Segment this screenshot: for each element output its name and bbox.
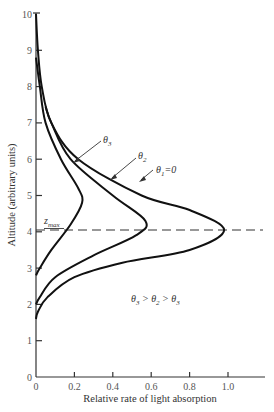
theta2-label: θ2 (138, 150, 147, 164)
curves (36, 14, 224, 319)
y-tick-label: 0 (27, 372, 32, 383)
y-tick-label: 6 (27, 154, 32, 165)
x-tick-label: 0.4 (107, 381, 120, 392)
x-tick-label: 0.6 (145, 381, 158, 392)
y-tick-label: 9 (27, 45, 32, 56)
y-tick-label: 8 (27, 81, 32, 92)
inequality-part: > (160, 293, 172, 304)
curve-theta2 (36, 107, 147, 305)
altitude-absorption-chart: 012345678910 00.20.40.60.81.0 Relative r… (0, 0, 274, 412)
x-tick-label: 0.8 (183, 381, 196, 392)
theta3-label: θ3 (103, 134, 112, 148)
label-theta1: θ1=0 (139, 164, 176, 182)
y-tick-label: 10 (22, 9, 32, 20)
zmax-sub: max (48, 221, 61, 229)
inequality-part: > (139, 293, 151, 304)
theta3-pointer (75, 141, 101, 161)
x-tick-label: 0 (34, 381, 39, 392)
x-axis-title: Relative rate of light absorption (83, 393, 217, 404)
x-ticks: 00.20.40.60.81.0 (34, 372, 235, 392)
y-tick-label: 2 (27, 299, 32, 310)
y-tick-label: 5 (27, 190, 32, 201)
axes (33, 13, 265, 377)
theta2-pointer (112, 158, 136, 178)
label-theta2: θ2 (110, 150, 147, 180)
zmax-label: zmax (43, 215, 60, 229)
y-tick-label: 1 (27, 335, 32, 346)
x-tick-label: 1.0 (222, 381, 235, 392)
y-tick-label: 7 (27, 117, 32, 128)
theta1-label: θ1=0 (156, 164, 176, 178)
y-tick-label: 4 (27, 226, 32, 237)
subscript: 3 (175, 299, 180, 307)
x-tick-label: 0.2 (68, 381, 81, 392)
y-axis-title: Altitude (arbitrary units) (6, 143, 18, 247)
inequality-annotation: θ3 > θ2 > θ3 (131, 293, 180, 307)
y-tick-label: 3 (27, 263, 32, 274)
